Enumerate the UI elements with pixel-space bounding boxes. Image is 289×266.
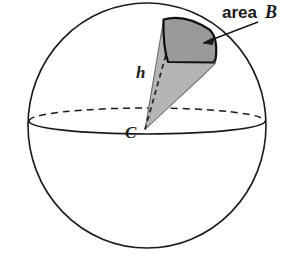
center-label: C <box>125 123 137 142</box>
figure-root: area B h C <box>0 0 289 266</box>
area-label-symbol: B <box>264 2 277 22</box>
height-label: h <box>136 63 145 82</box>
sphere-solid-angle-diagram: area B h C <box>0 0 289 266</box>
area-label-prefix: area <box>222 3 258 22</box>
diagram-background <box>0 0 289 266</box>
